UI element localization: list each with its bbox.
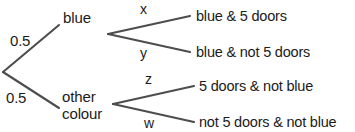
node-label-other-colour: other colour [62, 88, 102, 122]
node-label-other-line1: other [62, 88, 102, 105]
branch-line-blue-to-y [108, 34, 190, 52]
branch-line-other-to-z [113, 86, 194, 104]
outcome-label-not-5-doors-and-not-blue: not 5 doors & not blue [199, 115, 336, 130]
node-label-blue: blue [63, 10, 91, 25]
probability-label-other: 0.5 [6, 90, 26, 105]
node-label-other-line2: colour [62, 105, 102, 122]
probability-label-y: y [140, 46, 147, 60]
outcome-label-5-doors-and-not-blue: 5 doors & not blue [199, 79, 313, 94]
probability-label-x: x [140, 2, 147, 16]
branch-line-blue-to-x [108, 16, 190, 34]
probability-label-z: z [145, 72, 152, 86]
probability-label-blue: 0.5 [10, 33, 30, 48]
tree-branch-lines [0, 0, 355, 132]
outcome-label-blue-and-5-doors: blue & 5 doors [196, 9, 287, 24]
outcome-label-blue-and-not-5-doors: blue & not 5 doors [196, 45, 310, 60]
probability-tree-diagram: 0.5 0.5 blue other colour x y z w blue &… [0, 0, 355, 132]
probability-label-w: w [144, 116, 154, 130]
